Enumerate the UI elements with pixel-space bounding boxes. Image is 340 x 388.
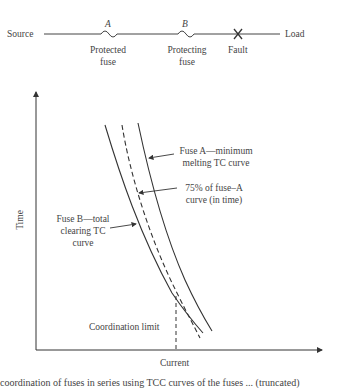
- fuse-b-annotation-line2: clearing TC: [52, 225, 114, 237]
- fuse-b-label: Protecting fuse: [164, 44, 210, 68]
- fuse-b-label-line1: Protecting: [164, 44, 210, 56]
- fuse-a-label-line1: Protected: [86, 44, 130, 56]
- leader-fuse-a: [149, 154, 174, 158]
- x-axis-label: Current: [160, 357, 189, 369]
- load-label: Load: [285, 28, 305, 40]
- circuit-line: [44, 31, 280, 37]
- fault-label: Fault: [228, 44, 248, 56]
- fuse-b-symbol: [178, 31, 194, 37]
- coordination-limit-label: Coordination limit: [89, 321, 159, 333]
- y-axis-label: Time: [14, 210, 26, 230]
- fuse-a-label: Protected fuse: [86, 44, 130, 68]
- pct75-annotation-line2: curve (in time): [178, 194, 250, 206]
- fuse-b-label-line2: fuse: [164, 56, 210, 68]
- fuse-a-annotation-line1: Fuse A—minimum: [174, 145, 258, 157]
- fuse-a-annotation: Fuse A—minimum melting TC curve: [174, 145, 258, 169]
- source-label: Source: [7, 28, 33, 40]
- fuse-a-label-line2: fuse: [86, 56, 130, 68]
- fuse-b-annotation: Fuse B—total clearing TC curve: [52, 213, 114, 249]
- fuse-b-annotation-line3: curve: [52, 237, 114, 249]
- pct75-annotation-line1: 75% of fuse–A: [178, 182, 250, 194]
- figure-caption: coordination of fuses in series using TC…: [0, 377, 299, 388]
- fuse-b-letter: B: [182, 18, 188, 30]
- fuse-a-annotation-line2: melting TC curve: [174, 157, 258, 169]
- fuse-a-letter: A: [105, 18, 111, 30]
- fuse-a-symbol: [101, 31, 117, 37]
- fuse-b-annotation-line1: Fuse B—total: [52, 213, 114, 225]
- leader-75pct: [139, 188, 177, 193]
- pct75-annotation: 75% of fuse–A curve (in time): [178, 182, 250, 206]
